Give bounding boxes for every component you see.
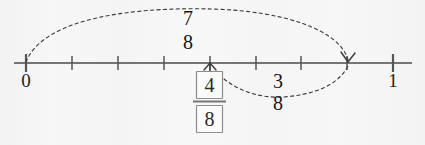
total-arc-numerator: 7 xyxy=(183,7,193,29)
addend-arc-denominator: 8 xyxy=(273,92,283,114)
addend-arc-label: 3 8 xyxy=(273,70,283,114)
worksheet-canvas: 0 1 7 8 3 8 4 8 xyxy=(0,0,425,145)
number-line-diagram: 0 1 7 8 3 8 4 8 xyxy=(0,0,425,145)
addend-arc-numerator: 3 xyxy=(273,70,283,92)
answer-fraction[interactable]: 4 8 xyxy=(193,72,226,133)
total-arc-denominator: 8 xyxy=(183,31,193,53)
label-zero: 0 xyxy=(21,70,31,91)
addend-arc-path xyxy=(224,66,348,97)
total-arc-label: 7 8 xyxy=(183,7,193,53)
label-one: 1 xyxy=(388,70,398,91)
answer-numerator: 4 xyxy=(205,74,215,96)
answer-denominator: 8 xyxy=(205,108,215,130)
addend-arc-group xyxy=(224,66,348,97)
